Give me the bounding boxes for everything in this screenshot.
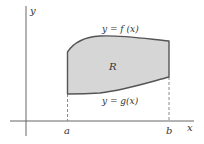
left-bound-label: a [64, 125, 70, 136]
bottom-curve-label: y = g(x) [101, 96, 139, 106]
right-bound-label: b [166, 125, 172, 136]
region-between-curves-diagram: y x y = f (x) R y = g(x) a b [0, 0, 204, 144]
x-axis-label: x [187, 122, 193, 133]
region-label: R [108, 61, 117, 72]
y-axis-label: y [29, 5, 36, 16]
region-r [68, 36, 170, 94]
top-curve-label: y = f (x) [101, 24, 139, 34]
